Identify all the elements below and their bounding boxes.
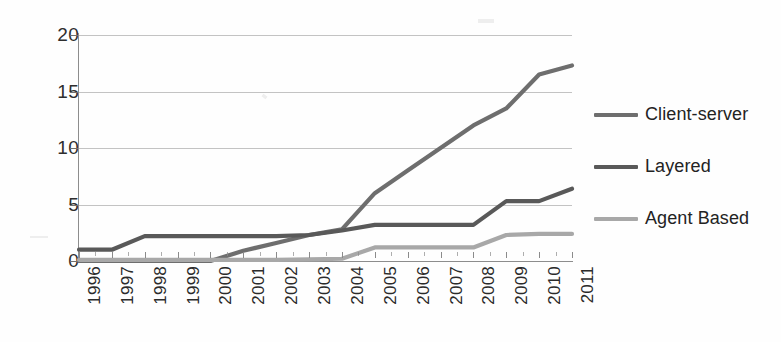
x-minor-tick-mark bbox=[128, 252, 129, 256]
x-tick-mark bbox=[178, 252, 179, 258]
x-tick-label: 2002 bbox=[282, 266, 302, 305]
x-tick-mark bbox=[441, 252, 442, 258]
x-minor-tick-mark bbox=[95, 252, 96, 256]
x-minor-tick-mark bbox=[358, 252, 359, 256]
line-chart: 05101520 1996199719981999200020012002200… bbox=[0, 0, 781, 342]
x-minor-tick-mark bbox=[260, 252, 261, 256]
x-axis: 1996199719981999200020012002200320042005… bbox=[79, 264, 572, 342]
x-tick-mark bbox=[375, 252, 376, 258]
x-tick-mark bbox=[309, 252, 310, 258]
x-tick-label: 2007 bbox=[447, 266, 467, 305]
x-minor-tick-mark bbox=[457, 252, 458, 256]
x-minor-tick-mark bbox=[490, 252, 491, 256]
legend-swatch-icon bbox=[594, 113, 638, 117]
x-minor-tick-mark bbox=[523, 252, 524, 256]
x-minor-tick-mark bbox=[424, 252, 425, 256]
series-lines bbox=[79, 35, 572, 261]
x-tick-mark bbox=[506, 252, 507, 258]
x-tick-mark bbox=[539, 252, 540, 258]
x-tick-label: 2008 bbox=[479, 266, 499, 305]
x-tick-label: 2011 bbox=[578, 266, 598, 303]
x-tick-label: 2010 bbox=[545, 266, 565, 305]
x-tick-label: 2000 bbox=[216, 266, 236, 305]
x-tick-mark bbox=[243, 252, 244, 258]
x-minor-tick-mark bbox=[161, 252, 162, 256]
y-axis: 05101520 bbox=[0, 0, 79, 342]
x-minor-tick-mark bbox=[194, 252, 195, 256]
x-tick-label: 2009 bbox=[512, 266, 532, 305]
x-tick-label: 1996 bbox=[85, 266, 105, 305]
legend-item[interactable]: Client-server bbox=[594, 104, 748, 125]
legend-item-label: Agent Based bbox=[645, 208, 749, 229]
x-tick-label: 2006 bbox=[414, 266, 434, 305]
x-tick-label: 1998 bbox=[151, 266, 171, 305]
x-tick-mark bbox=[572, 252, 573, 258]
plot-area bbox=[79, 35, 572, 261]
x-tick-mark bbox=[145, 252, 146, 258]
x-tick-mark bbox=[112, 252, 113, 258]
legend-item-label: Client-server bbox=[645, 104, 748, 125]
x-tick-mark bbox=[473, 252, 474, 258]
x-tick-label: 1997 bbox=[118, 266, 138, 305]
scan-speckle bbox=[478, 19, 494, 23]
x-tick-label: 2005 bbox=[381, 266, 401, 305]
x-minor-tick-mark bbox=[326, 252, 327, 256]
x-minor-tick-mark bbox=[556, 252, 557, 256]
series-line bbox=[79, 189, 572, 250]
x-tick-label: 2003 bbox=[315, 266, 335, 305]
x-tick-mark bbox=[276, 252, 277, 258]
x-tick-mark bbox=[79, 252, 80, 258]
x-minor-tick-mark bbox=[293, 252, 294, 256]
legend-item[interactable]: Layered bbox=[594, 156, 711, 177]
x-tick-mark bbox=[210, 252, 211, 258]
x-tick-mark bbox=[342, 252, 343, 258]
x-tick-label: 1999 bbox=[184, 266, 204, 305]
x-minor-tick-mark bbox=[391, 252, 392, 256]
chart-legend: Client-serverLayeredAgent Based bbox=[594, 80, 781, 240]
legend-swatch-icon bbox=[594, 217, 638, 221]
legend-item[interactable]: Agent Based bbox=[594, 208, 749, 229]
x-minor-tick-mark bbox=[227, 252, 228, 256]
x-tick-label: 2001 bbox=[249, 266, 269, 305]
x-tick-label: 2004 bbox=[348, 266, 368, 305]
x-tick-mark bbox=[408, 252, 409, 258]
legend-item-label: Layered bbox=[645, 156, 711, 177]
legend-swatch-icon bbox=[594, 165, 638, 169]
